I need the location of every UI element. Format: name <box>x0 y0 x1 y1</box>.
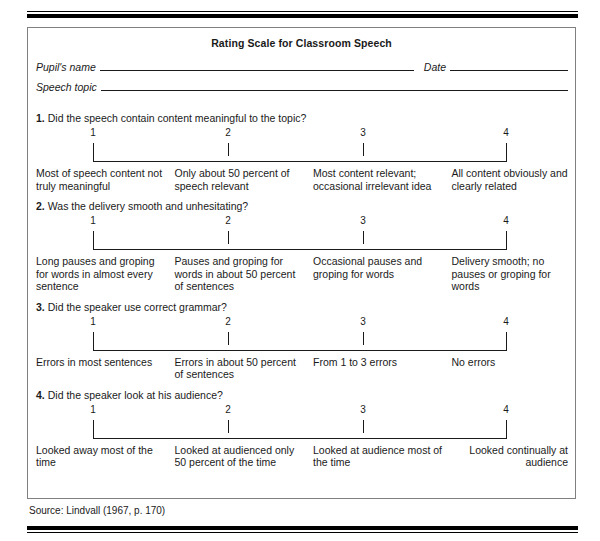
anchor-label: Looked away most of the time <box>36 444 174 469</box>
anchor-label: Pauses and groping for words in about 50… <box>174 255 312 293</box>
anchor-label: Looked continually at audience <box>451 444 568 469</box>
question-block: 3.Did the speaker use correct grammar?12… <box>28 301 575 381</box>
pupil-name-input[interactable] <box>100 61 414 71</box>
scale-point-1[interactable]: 1 <box>90 127 96 138</box>
anchor-label: From 1 to 3 errors <box>313 356 451 381</box>
rating-form-box: Rating Scale for Classroom Speech Pupil'… <box>27 27 576 499</box>
scale-tick-1[interactable] <box>93 231 94 250</box>
question-number: 3. <box>36 301 45 313</box>
question-number: 1. <box>36 112 45 124</box>
scale-tick-4[interactable] <box>506 420 507 439</box>
scale-tick-4[interactable] <box>506 332 507 351</box>
anchor-label: Looked at audienced only 50 percent of t… <box>174 444 312 469</box>
question-prompt: Was the delivery smooth and unhesitating… <box>48 200 248 212</box>
anchor-label: All content obviously and clearly relate… <box>451 167 568 192</box>
rating-scale[interactable]: 1234 <box>36 314 568 354</box>
scale-tick-4[interactable] <box>506 231 507 250</box>
anchor-label: Errors in most sentences <box>36 356 174 381</box>
question-text: 3.Did the speaker use correct grammar? <box>36 301 568 314</box>
scale-tick-1[interactable] <box>93 420 94 439</box>
question-prompt: Did the speaker look at his audience? <box>48 389 223 401</box>
anchor-label: Occasional pauses and groping for words <box>313 255 451 293</box>
scale-tick-3[interactable] <box>363 231 364 244</box>
scale-point-3[interactable]: 3 <box>360 215 366 226</box>
anchor-labels: Most of speech content not truly meaning… <box>36 167 568 192</box>
anchor-labels: Errors in most sentencesErrors in about … <box>36 356 568 381</box>
rating-scale-page: Rating Scale for Classroom Speech Pupil'… <box>0 0 600 541</box>
speech-topic-row: Speech topic <box>36 81 568 101</box>
anchor-label: No errors <box>451 356 568 381</box>
scale-point-1[interactable]: 1 <box>90 215 96 226</box>
rating-scale[interactable]: 1234 <box>36 213 568 253</box>
scale-point-2[interactable]: 2 <box>225 316 231 327</box>
scale-baseline <box>93 249 506 250</box>
scale-point-2[interactable]: 2 <box>225 127 231 138</box>
questions-list: 1.Did the speech contain content meaning… <box>28 112 575 469</box>
scale-tick-3[interactable] <box>363 143 364 156</box>
scale-tick-2[interactable] <box>228 332 229 345</box>
page-title: Rating Scale for Classroom Speech <box>28 37 575 49</box>
scale-point-1[interactable]: 1 <box>90 316 96 327</box>
scale-point-4[interactable]: 4 <box>503 215 509 226</box>
anchor-labels: Long pauses and groping for words in alm… <box>36 255 568 293</box>
scale-baseline <box>93 350 506 351</box>
scale-point-3[interactable]: 3 <box>360 127 366 138</box>
question-text: 2.Was the delivery smooth and unhesitati… <box>36 200 568 213</box>
scale-tick-2[interactable] <box>228 420 229 433</box>
scale-tick-1[interactable] <box>93 143 94 162</box>
question-block: 4.Did the speaker look at his audience?1… <box>28 389 575 469</box>
anchor-labels: Looked away most of the timeLooked at au… <box>36 444 568 469</box>
scale-number-row: 1234 <box>36 215 568 227</box>
scale-number-row: 1234 <box>36 316 568 328</box>
question-block: 1.Did the speech contain content meaning… <box>28 112 575 192</box>
anchor-label: Looked at audience most of the time <box>313 444 451 469</box>
scale-baseline <box>93 438 506 439</box>
scale-point-3[interactable]: 3 <box>360 316 366 327</box>
scale-point-3[interactable]: 3 <box>360 404 366 415</box>
question-number: 2. <box>36 200 45 212</box>
scale-point-2[interactable]: 2 <box>225 404 231 415</box>
scale-point-2[interactable]: 2 <box>225 215 231 226</box>
anchor-label: Most of speech content not truly meaning… <box>36 167 174 192</box>
top-rule <box>27 11 578 18</box>
scale-tick-3[interactable] <box>363 332 364 345</box>
scale-tick-1[interactable] <box>93 332 94 351</box>
anchor-label: Long pauses and groping for words in alm… <box>36 255 174 293</box>
scale-number-row: 1234 <box>36 404 568 416</box>
scale-tick-3[interactable] <box>363 420 364 433</box>
question-block: 2.Was the delivery smooth and unhesitati… <box>28 200 575 293</box>
scale-tick-4[interactable] <box>506 143 507 162</box>
date-input[interactable] <box>450 61 568 71</box>
speech-topic-input[interactable] <box>101 81 568 91</box>
scale-point-4[interactable]: 4 <box>503 404 509 415</box>
bottom-rule <box>27 526 578 533</box>
rating-scale[interactable]: 1234 <box>36 125 568 165</box>
source-citation: Source: Lindvall (1967, p. 170) <box>29 505 165 516</box>
scale-baseline <box>93 161 506 162</box>
scale-number-row: 1234 <box>36 127 568 139</box>
rating-scale[interactable]: 1234 <box>36 402 568 442</box>
scale-tick-2[interactable] <box>228 143 229 156</box>
question-prompt: Did the speaker use correct grammar? <box>48 301 227 313</box>
question-number: 4. <box>36 389 45 401</box>
question-prompt: Did the speech contain content meaningfu… <box>48 112 307 124</box>
scale-point-4[interactable]: 4 <box>503 316 509 327</box>
question-text: 1.Did the speech contain content meaning… <box>36 112 568 125</box>
scale-tick-2[interactable] <box>228 231 229 244</box>
pupil-name-row: Pupil's name Date <box>36 61 568 81</box>
top-rule-thick <box>27 14 578 18</box>
question-text: 4.Did the speaker look at his audience? <box>36 389 568 402</box>
bottom-rule-thin <box>27 532 578 533</box>
anchor-label: Only about 50 percent of speech relevant <box>174 167 312 192</box>
anchor-label: Errors in about 50 percent of sentences <box>174 356 312 381</box>
anchor-label: Delivery smooth; no pauses or groping fo… <box>451 255 568 293</box>
scale-point-4[interactable]: 4 <box>503 127 509 138</box>
pupil-name-label: Pupil's name <box>36 61 96 73</box>
speech-topic-label: Speech topic <box>36 81 97 93</box>
date-label: Date <box>424 61 446 73</box>
anchor-label: Most content relevant; occasional irrele… <box>313 167 451 192</box>
scale-point-1[interactable]: 1 <box>90 404 96 415</box>
identification-section: Pupil's name Date Speech topic <box>28 61 575 101</box>
